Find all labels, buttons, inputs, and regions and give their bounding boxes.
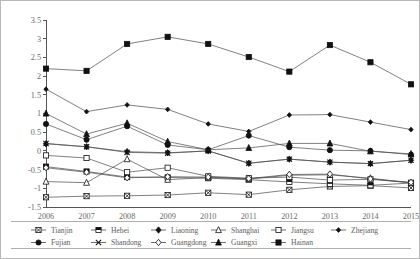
y-tick-label: 1.5 — [31, 91, 41, 100]
legend-item-liaoning[interactable]: Liaoning — [151, 226, 199, 235]
marker-square-filled-icon — [276, 240, 281, 245]
series-line — [46, 168, 411, 183]
marker-diamond-small-icon — [206, 122, 210, 127]
marker-square-open-icon — [165, 165, 170, 170]
marker-triangle-filled-icon — [327, 140, 333, 146]
legend-item-hebei[interactable]: Hebei — [91, 226, 129, 235]
marker-circle-filled-icon — [43, 121, 48, 126]
marker-diamond-small-icon — [44, 87, 48, 92]
x-tick-label: 2012 — [281, 212, 297, 221]
marker-circle-filled-icon — [246, 133, 251, 138]
marker-square-filled-icon — [327, 42, 332, 47]
y-tick-label: 3.5 — [31, 16, 41, 25]
series-hainan — [43, 34, 413, 87]
series-line — [46, 144, 411, 164]
series-jiangsu — [43, 153, 413, 186]
marker-square-open-icon — [327, 177, 332, 182]
legend-item-tianjin[interactable]: Tianjin — [31, 226, 73, 235]
marker-diamond-open-icon — [156, 239, 161, 245]
y-tick-label: 2.5 — [31, 53, 41, 62]
marker-diamond-small-icon — [336, 228, 340, 233]
legend-label: Liaoning — [171, 226, 199, 235]
marker-square-filled-icon — [84, 68, 89, 73]
y-tick-label: 0 — [37, 147, 41, 156]
marker-triangle-filled-icon — [124, 120, 130, 126]
marker-square-open-icon — [84, 155, 89, 160]
legend-label: Jiangsu — [291, 226, 314, 235]
marker-square-open-icon — [276, 227, 281, 232]
x-tick-label: 2008 — [119, 212, 135, 221]
marker-square-filled-icon — [165, 34, 170, 39]
legend-item-guangdong[interactable]: Guangdong — [151, 238, 207, 247]
legend-item-fujian[interactable]: Fujian — [31, 238, 71, 247]
marker-square-filled-icon — [408, 82, 413, 87]
marker-circle-filled-icon — [327, 148, 332, 153]
marker-square-filled-icon — [368, 60, 373, 65]
legend-label: Shanghai — [231, 226, 259, 235]
series-guangdong — [43, 165, 413, 186]
series-line — [46, 167, 411, 186]
legend-label: Hainan — [291, 238, 313, 247]
y-tick-label: -0.5 — [28, 166, 41, 175]
series-line — [46, 186, 411, 198]
marker-square-filled-icon — [125, 41, 130, 46]
legend-item-guangxi[interactable]: Guangxi — [211, 238, 257, 247]
legend-item-shanghai[interactable]: Shanghai — [211, 226, 259, 235]
marker-square-filled-icon — [206, 41, 211, 46]
y-tick-label: -1 — [34, 184, 41, 193]
x-tick-label: 2011 — [241, 212, 257, 221]
marker-diamond-small-icon — [328, 112, 332, 117]
marker-triangle-filled-icon — [165, 138, 171, 144]
series-fujian — [43, 121, 413, 157]
legend-label: Hebei — [111, 226, 129, 235]
series-line — [46, 143, 411, 163]
legend-item-zhejiang[interactable]: Zhejiang — [331, 226, 378, 235]
x-tick-label: 2007 — [78, 212, 94, 221]
marker-circle-filled-icon — [84, 137, 89, 142]
marker-diamond-small-icon — [84, 109, 88, 114]
y-tick-label: 3 — [37, 35, 41, 44]
marker-triangle-open-icon — [43, 178, 49, 184]
x-tick-label: 2009 — [159, 212, 175, 221]
marker-diamond-filled-icon — [156, 227, 161, 233]
x-tick-label: 2014 — [362, 212, 378, 221]
marker-half-fill — [368, 183, 373, 186]
x-tick-label: 2010 — [200, 212, 216, 221]
y-tick-label: 1 — [37, 109, 41, 118]
legend-item-hainan[interactable]: Hainan — [271, 238, 313, 247]
marker-square-filled-icon — [43, 66, 48, 71]
series-hebei — [43, 164, 413, 188]
marker-square-filled-icon — [287, 69, 292, 74]
legend-item-shandong[interactable]: Shandong — [91, 238, 142, 247]
legend-label: Shandong — [111, 238, 142, 247]
x-tick-label: 2015 — [403, 212, 419, 221]
legend-item-jiangsu[interactable]: Jiangsu — [271, 226, 314, 235]
series-line — [46, 89, 411, 131]
series-tianjin — [43, 183, 413, 200]
series-shanghai — [43, 156, 414, 186]
series-line — [46, 37, 411, 85]
y-tick-label: 2 — [37, 72, 41, 81]
chart-figure: -1.5-1-0.500.511.522.533.520062007200820… — [0, 0, 420, 259]
x-tick-label: 2013 — [322, 212, 338, 221]
marker-square-open-icon — [43, 153, 48, 158]
marker-circle-filled-icon — [36, 240, 41, 245]
marker-half-fill — [96, 227, 101, 230]
marker-triangle-filled-icon — [286, 140, 292, 146]
legend-label: Guangxi — [231, 238, 257, 247]
marker-diamond-small-icon — [125, 102, 129, 107]
marker-square-filled-icon — [246, 54, 251, 59]
legend-label: Tianjin — [51, 226, 73, 235]
marker-diamond-small-icon — [409, 127, 413, 132]
legend-label: Zhejiang — [351, 226, 378, 235]
x-tick-label: 2006 — [38, 212, 54, 221]
marker-diamond-small-icon — [165, 107, 169, 112]
y-tick-label: 0.5 — [31, 128, 41, 137]
legend-label: Fujian — [51, 238, 71, 247]
line-chart-svg: -1.5-1-0.500.511.522.533.520062007200820… — [1, 1, 420, 259]
marker-triangle-open-icon — [124, 156, 130, 162]
legend-label: Guangdong — [171, 238, 207, 247]
marker-diamond-small-icon — [368, 120, 372, 125]
marker-diamond-small-icon — [287, 113, 291, 118]
series-guangxi — [43, 110, 414, 156]
